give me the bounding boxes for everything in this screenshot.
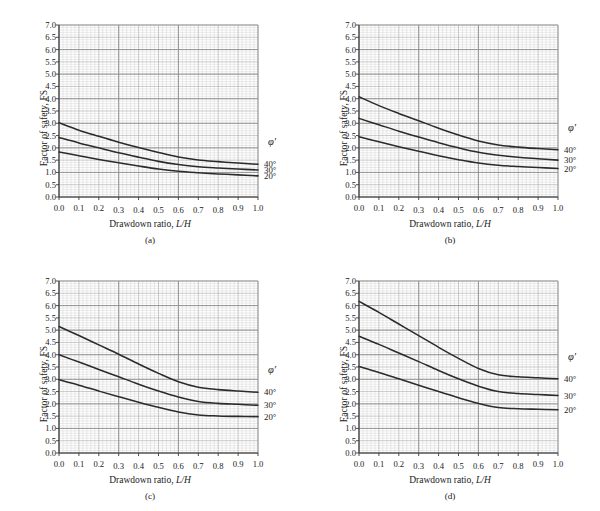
x-tick-label: 0.6 [173,462,184,471]
y-tick-label: 6.5 [345,33,356,42]
legend-item-20: 20° [564,405,576,415]
y-tick-label: 4.0 [45,94,56,103]
y-tick-label: 5.5 [345,314,356,323]
x-tick-label: 0.5 [153,462,164,471]
y-tick-label: 0.0 [45,449,56,458]
y-tick-label: 6.0 [45,301,56,310]
x-tick-label: 0.2 [93,204,104,213]
y-tick-label: 4.0 [45,350,56,359]
y-tick-label: 3.5 [45,363,56,372]
x-tick-label: 0.3 [413,462,424,471]
x-tick-label: 0.2 [393,460,404,469]
x-axis-title: Drawdown ratio, L/H [0,219,300,229]
x-tick-label: 0.9 [233,460,244,469]
legend-item-30: 30° [564,391,576,401]
y-tick-label: 2.0 [345,144,356,153]
y-tick-label: 2.5 [345,387,356,396]
y-tick-label: 0.5 [345,436,356,445]
y-tick-label: 3.0 [345,119,356,128]
x-tick-label: 0.6 [473,462,484,471]
x-tick-label: 0.9 [533,460,544,469]
y-tick-label: 3.0 [45,119,56,128]
x-tick-label: 0.0 [54,204,65,213]
legend-item-20: 20° [264,171,276,181]
panel-caption: (c) [0,491,300,501]
y-tick-label: 4.5 [345,338,356,347]
y-tick-label: 2.5 [345,131,356,140]
y-tick-label: 1.0 [45,168,56,177]
x-tick-label: 0.5 [453,206,464,215]
x-tick-label: 0.2 [393,204,404,213]
y-tick-label: 1.5 [45,412,56,421]
y-tick-label: 6.5 [345,289,356,298]
y-tick-label: 5.0 [345,326,356,335]
y-tick-label: 0.5 [45,180,56,189]
panel-caption: (d) [300,491,600,501]
x-tick-label: 0.1 [74,204,85,213]
x-tick-label: 1.0 [253,204,264,213]
chart-panel-c: Factor of safety, FS0.00.51.01.52.02.53.… [0,256,300,511]
y-tick-label: 3.5 [345,107,356,116]
legend-title: φ′ [568,122,576,133]
y-tick-label: 5.5 [45,314,56,323]
y-tick-label: 2.5 [45,387,56,396]
y-tick-label: 1.5 [345,156,356,165]
panel-caption: (a) [0,235,300,245]
legend-item-40: 40° [264,387,276,397]
y-tick-label: 6.0 [345,45,356,54]
y-tick-label: 7.0 [345,21,356,30]
chart-panel-b: Factor of safety, FS0.00.51.01.52.02.53.… [300,0,600,255]
y-tick-label: 5.5 [45,58,56,67]
y-tick-label: 2.0 [45,144,56,153]
y-tick-label: 6.5 [45,289,56,298]
legend-item-40: 40° [564,374,576,384]
x-tick-label: 1.0 [553,460,564,469]
x-tick-label: 0.4 [133,462,144,471]
x-tick-label: 0.7 [493,206,504,215]
y-tick-label: 4.5 [345,82,356,91]
x-tick-label: 0.8 [213,206,224,215]
y-tick-label: 5.0 [345,70,356,79]
y-tick-label: 3.0 [45,375,56,384]
y-tick-label: 4.5 [45,82,56,91]
y-tick-label: 2.0 [345,400,356,409]
x-tick-label: 0.8 [213,462,224,471]
x-tick-label: 0.8 [513,462,524,471]
y-tick-label: 0.5 [345,180,356,189]
chart-panel-d: Factor of safety, FS0.00.51.01.52.02.53.… [300,256,600,511]
y-tick-label: 1.5 [345,412,356,421]
y-tick-label: 5.0 [45,326,56,335]
x-tick-label: 0.3 [113,206,124,215]
x-tick-label: 0.7 [193,206,204,215]
y-tick-label: 2.0 [45,400,56,409]
x-tick-label: 0.5 [153,206,164,215]
x-tick-label: 1.0 [553,204,564,213]
y-tick-label: 7.0 [45,21,56,30]
y-tick-label: 0.5 [45,436,56,445]
y-tick-label: 4.0 [345,94,356,103]
x-tick-label: 0.2 [93,460,104,469]
x-tick-label: 0.0 [54,460,65,469]
y-tick-label: 6.5 [45,33,56,42]
y-tick-label: 6.0 [345,301,356,310]
y-tick-label: 3.5 [345,363,356,372]
legend-title: φ′ [568,351,576,362]
x-tick-label: 1.0 [253,460,264,469]
x-tick-label: 0.7 [193,462,204,471]
x-tick-label: 0.9 [233,204,244,213]
x-tick-label: 0.7 [493,462,504,471]
y-tick-label: 4.0 [345,350,356,359]
figure-panel-grid: Factor of safety, FS0.00.51.01.52.02.53.… [0,0,600,511]
chart-panel-a: Factor of safety, FS0.00.51.01.52.02.53.… [0,0,300,255]
y-tick-label: 0.0 [345,193,356,202]
y-tick-label: 0.0 [345,449,356,458]
x-tick-label: 0.3 [113,462,124,471]
x-tick-label: 0.4 [433,206,444,215]
y-tick-label: 6.0 [45,45,56,54]
x-axis-title: Drawdown ratio, L/H [300,219,600,229]
x-tick-label: 0.4 [133,206,144,215]
legend-title: φ′ [268,136,276,147]
y-tick-label: 1.0 [45,424,56,433]
y-tick-label: 2.5 [45,131,56,140]
x-tick-label: 0.6 [473,206,484,215]
